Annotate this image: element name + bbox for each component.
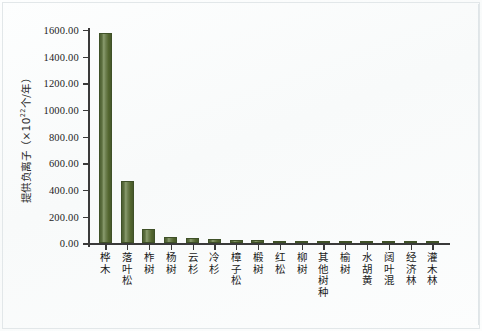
bar bbox=[317, 241, 330, 244]
y-axis-title-tail: 个/年） bbox=[20, 73, 32, 108]
x-axis-tick-label: 椴树 bbox=[251, 252, 264, 275]
y-axis-tick bbox=[83, 243, 88, 244]
y-axis-tick bbox=[83, 83, 88, 84]
y-axis-tick-label: 0.00 bbox=[60, 238, 79, 249]
x-axis-tick bbox=[214, 245, 215, 250]
bar bbox=[273, 241, 286, 244]
x-axis-tick-label: 经济林 bbox=[404, 252, 417, 287]
plot-area: 0.00200.00400.00600.00800.001000.001200.… bbox=[88, 30, 450, 245]
y-axis-tick-label: 1200.00 bbox=[43, 78, 79, 89]
y-axis-tick-label: 1600.00 bbox=[43, 25, 79, 36]
y-axis-tick-label: 1000.00 bbox=[43, 105, 79, 116]
y-axis-tick bbox=[83, 217, 88, 218]
y-axis-tick bbox=[83, 57, 88, 58]
y-axis-tick bbox=[83, 190, 88, 191]
bar bbox=[99, 33, 112, 244]
y-axis-tick-label: 200.00 bbox=[49, 211, 79, 222]
page-border-right bbox=[478, 4, 479, 325]
x-axis-tick bbox=[193, 245, 194, 250]
x-axis-tick bbox=[105, 245, 106, 250]
x-axis-tick-label: 桦木 bbox=[99, 252, 112, 275]
y-axis-title: 提供负离子（×1022个/年） bbox=[18, 73, 33, 203]
bar-series bbox=[90, 30, 450, 243]
x-axis-tick-label: 樟子松 bbox=[230, 252, 243, 287]
bar bbox=[164, 237, 177, 243]
bar bbox=[426, 241, 439, 244]
x-axis-tick-label: 灌木林 bbox=[426, 252, 439, 287]
x-axis-tick-label: 榆树 bbox=[339, 252, 352, 275]
x-axis-tick-label: 杨树 bbox=[164, 252, 177, 275]
x-axis-tick-label: 水胡黄 bbox=[360, 252, 373, 287]
bar bbox=[121, 181, 134, 244]
y-axis-tick-label: 1400.00 bbox=[43, 51, 79, 62]
bar bbox=[360, 241, 373, 244]
y-axis-tick-label: 400.00 bbox=[49, 185, 79, 196]
x-axis-tick bbox=[411, 245, 412, 250]
y-axis-title-container: 提供负离子（×1022个/年） bbox=[8, 18, 42, 258]
bar bbox=[295, 241, 308, 244]
y-axis-tick bbox=[83, 137, 88, 138]
x-axis-tick bbox=[302, 245, 303, 250]
x-axis-tick-label: 柞树 bbox=[142, 252, 155, 275]
y-axis-tick bbox=[83, 163, 88, 164]
bar bbox=[142, 229, 155, 243]
bar bbox=[208, 239, 221, 243]
bar bbox=[404, 241, 417, 244]
x-axis-tick bbox=[127, 245, 128, 250]
x-axis-line bbox=[88, 243, 450, 245]
x-axis-tick bbox=[367, 245, 368, 250]
x-axis-tick-label: 柳树 bbox=[295, 252, 308, 275]
y-axis-tick bbox=[83, 110, 88, 111]
y-axis-tick-label: 600.00 bbox=[49, 158, 79, 169]
x-axis-tick bbox=[323, 245, 324, 250]
x-axis-tick bbox=[149, 245, 150, 250]
x-axis-tick bbox=[389, 245, 390, 250]
bar bbox=[186, 238, 199, 243]
y-axis-title-exponent: 22 bbox=[19, 108, 27, 117]
x-axis-tick-label: 红松 bbox=[273, 252, 286, 275]
bar bbox=[339, 241, 352, 244]
x-axis-tick bbox=[280, 245, 281, 250]
x-axis-tick-label: 落叶松 bbox=[121, 252, 134, 287]
y-axis-tick-label: 800.00 bbox=[49, 131, 79, 142]
bar bbox=[382, 241, 395, 244]
x-axis-tick-label: 云杉 bbox=[186, 252, 199, 275]
x-axis-tick bbox=[236, 245, 237, 250]
bar bbox=[230, 240, 243, 244]
x-axis-tick-label: 冷杉 bbox=[208, 252, 221, 275]
bar bbox=[251, 240, 264, 243]
y-axis-title-base: 提供负离子（×10 bbox=[20, 117, 32, 203]
x-axis-tick bbox=[432, 245, 433, 250]
x-axis-tick bbox=[345, 245, 346, 250]
x-axis-labels: 桦木落叶松柞树杨树云杉冷杉樟子松椴树红松柳树其他树种榆树水胡黄阔叶混经济林灌木林 bbox=[88, 252, 450, 328]
chart-page: 提供负离子（×1022个/年） 0.00200.00400.00600.0080… bbox=[0, 0, 482, 331]
x-axis-tick bbox=[258, 245, 259, 250]
y-axis-tick bbox=[83, 30, 88, 31]
x-axis-tick bbox=[171, 245, 172, 250]
x-axis-tick-label: 阔叶混 bbox=[382, 252, 395, 287]
x-axis-tick-label: 其他树种 bbox=[317, 252, 330, 298]
